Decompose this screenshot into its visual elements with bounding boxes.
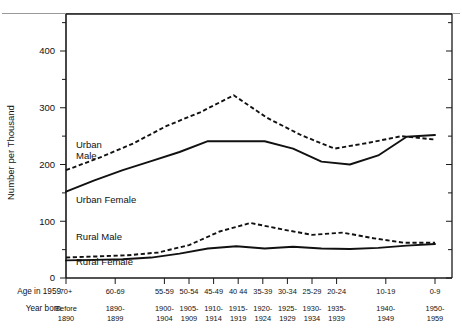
x-category-year-start: 1915- [229, 304, 248, 313]
x-category-age: 10-19 [376, 287, 395, 296]
chart-root: Number per Thousand 0100200300400 70+Bef… [0, 0, 462, 329]
y-tick-group: 0100200300400 [39, 23, 452, 284]
x-category-year-end: 1929 [279, 314, 295, 323]
x-category-age: 35-39 [253, 287, 272, 296]
x-category-year-start: 1930- [303, 304, 322, 313]
x-category-year-end: 1919 [230, 314, 246, 323]
x-category-year-end: 1914 [205, 314, 221, 323]
urban-female-label: Urban Female [76, 194, 136, 205]
x-category-year-end: 1949 [378, 314, 394, 323]
x-category-year-end: 1904 [156, 314, 172, 323]
x-category-year-start: 1900- [155, 304, 174, 313]
x-category-year-end: 1909 [181, 314, 197, 323]
x-category-year-start: 1925- [278, 304, 297, 313]
y-tick-label: 300 [39, 102, 55, 113]
x-category-year-start: 1920- [253, 304, 272, 313]
x-category-age: 50-54 [180, 287, 199, 296]
x-category-age: 20-24 [327, 287, 346, 296]
x-category-year-start: 1935- [327, 304, 346, 313]
rural-male-label: Rural Male [76, 231, 122, 242]
series-labels: Urban Male Urban Female Rural Male Rural… [76, 139, 136, 267]
x-category-age: 45-49 [204, 287, 223, 296]
x-category-age: 0-9 [430, 287, 441, 296]
x-category-age: 60-69 [106, 287, 125, 296]
x-category-year-end: 1959 [427, 314, 443, 323]
x-category-year-end: 1934 [304, 314, 320, 323]
x-category-year-start: 1890- [106, 304, 125, 313]
x-category-year-end: 1924 [255, 314, 271, 323]
y-tick-label: 100 [39, 216, 55, 227]
x-category-year-start: 1940- [376, 304, 395, 313]
x-category-age: 70+ [60, 287, 73, 296]
x-category-age: 25-29 [303, 287, 322, 296]
urban-male-label-line1: Urban [76, 139, 102, 150]
y-axis-label: Number per Thousand [5, 105, 16, 200]
x-category-year-start: 1905- [180, 304, 199, 313]
rural-female-label: Rural Female [76, 256, 133, 267]
urban-male-label-line2: Male [76, 150, 97, 161]
series-line-urban-female [66, 135, 435, 192]
x-category-year-end: 1939 [328, 314, 344, 323]
x-category-group: 70+Before189060-691890-189955-591900-190… [55, 287, 445, 323]
x-category-age: 55-59 [155, 287, 174, 296]
x-category-year-start: 1950- [426, 304, 445, 313]
population-line-chart: Number per Thousand 0100200300400 70+Bef… [0, 0, 462, 329]
x-category-year-end: 1899 [107, 314, 123, 323]
y-tick-label: 200 [39, 159, 55, 170]
row-label-age: Age in 1959 [17, 287, 61, 296]
row-label-year-born: Year born [26, 304, 62, 313]
y-tick-label: 400 [39, 45, 55, 56]
x-category-age: 40 44 [229, 287, 248, 296]
y-tick-label: 0 [50, 272, 55, 283]
series-line-urban-male [66, 95, 435, 170]
x-category-age: 30-34 [278, 287, 297, 296]
x-tick-group [66, 278, 435, 284]
x-axis-row-labels: Age in 1959 Year born [17, 287, 61, 313]
x-category-year-start: 1910- [204, 304, 223, 313]
x-category-year-end: 1890 [58, 314, 74, 323]
